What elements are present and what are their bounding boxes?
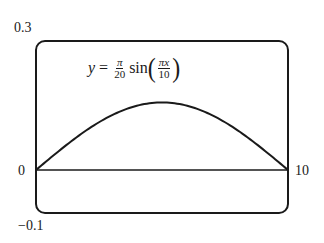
- equation-label: y = π 20 sin ( πx 10 ): [88, 56, 180, 80]
- arg-den: 10: [159, 69, 170, 80]
- eq-lparen: (: [148, 55, 156, 81]
- eq-func: sin: [129, 59, 148, 77]
- coef-num: π: [116, 57, 124, 69]
- eq-coef-fraction: π 20: [114, 57, 125, 80]
- sine-curve: [36, 102, 288, 170]
- eq-arg-fraction: πx 10: [158, 57, 170, 80]
- arg-num: πx: [158, 57, 170, 69]
- coef-den: 20: [114, 69, 125, 80]
- eq-rparen: ): [172, 55, 180, 81]
- eq-lhs: y: [88, 59, 95, 77]
- plot-area: [0, 0, 324, 243]
- eq-equals: =: [99, 59, 108, 77]
